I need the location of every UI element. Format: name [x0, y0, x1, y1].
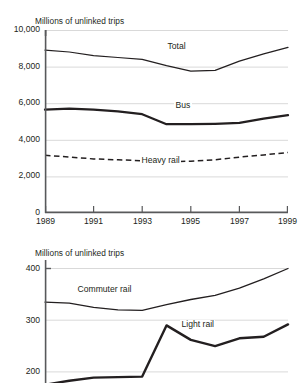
figure-two-panel-line-charts: Millions of unlinked trips 10,000 8,000 …	[0, 0, 300, 383]
plot-svg-bottom	[45, 260, 288, 383]
y-tick-label-bottom-400: 400	[0, 264, 40, 273]
y-tick-label-bottom-200: 200	[0, 367, 40, 376]
series-label-bus: Bus	[174, 101, 192, 110]
plot-svg-top	[45, 30, 288, 213]
series-line-bus	[45, 109, 288, 125]
y-tick-label-top-6000: 6,000	[0, 98, 40, 107]
plot-area-bottom	[45, 260, 288, 383]
series-label-total: Total	[166, 42, 187, 51]
chart-panel-top: Millions of unlinked trips 10,000 8,000 …	[0, 0, 300, 236]
series-label-commuter-rail: Commuter rail	[76, 285, 133, 294]
series-label-heavy-rail: Heavy rail	[140, 156, 181, 165]
y-tick-label-bottom-300: 300	[0, 316, 40, 325]
y-tick-label-top-2000: 2,000	[0, 171, 40, 180]
y-tick-label-top-0: 0	[0, 208, 40, 217]
series-line-light-rail	[45, 324, 288, 383]
x-tick-label-1999: 1999	[273, 217, 300, 226]
x-tick-label-1991: 1991	[79, 217, 108, 226]
x-tick-label-1995: 1995	[176, 217, 205, 226]
y-tick-label-top-10000: 10,000	[0, 25, 40, 34]
axis-caption-bottom: Millions of unlinked trips	[35, 248, 124, 258]
series-line-total	[45, 47, 288, 71]
y-tick-label-top-8000: 8,000	[0, 62, 40, 71]
x-axis-ticks-top	[46, 206, 288, 212]
axis-caption-top: Millions of unlinked trips	[35, 16, 124, 26]
x-tick-label-1993: 1993	[128, 217, 157, 226]
chart-panel-bottom: Millions of unlinked trips 400 300 200	[0, 240, 300, 383]
y-tick-label-top-4000: 4,000	[0, 135, 40, 144]
x-tick-label-1989: 1989	[31, 217, 60, 226]
x-tick-label-1997: 1997	[225, 217, 254, 226]
plot-area-top	[45, 30, 288, 213]
series-label-light-rail: Light rail	[180, 320, 215, 329]
